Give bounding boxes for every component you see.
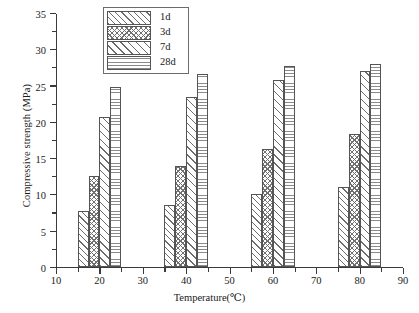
bar [284, 66, 295, 266]
y-minor-tick [52, 176, 56, 177]
y-tick-label: 35 [14, 9, 46, 20]
x-tick-label: 60 [268, 275, 279, 286]
bar [78, 211, 89, 266]
y-tick [50, 85, 56, 86]
y-minor-tick [52, 31, 56, 32]
x-tick [143, 268, 144, 274]
y-tick-label: 25 [14, 81, 46, 92]
legend-swatch [107, 56, 151, 70]
legend-item: 3d [107, 25, 185, 40]
y-axis-line [56, 14, 57, 268]
bar [349, 134, 360, 267]
y-minor-tick [52, 249, 56, 250]
y-tick-label: 20 [14, 117, 46, 128]
x-tick-label: 90 [398, 275, 409, 286]
legend-swatch [107, 41, 151, 55]
bar [360, 71, 371, 267]
x-minor-tick [338, 268, 339, 272]
legend-swatch [107, 11, 151, 25]
x-minor-tick [121, 268, 122, 272]
legend-label: 3d [160, 27, 171, 38]
bar [197, 74, 208, 267]
bar [186, 97, 197, 267]
legend-label: 1d [160, 12, 171, 23]
x-tick-label: 10 [51, 275, 62, 286]
x-tick [56, 268, 57, 274]
x-tick [273, 268, 274, 274]
y-tick-label: 0 [14, 263, 46, 274]
y-axis-label: Compressive strength (MPa) [21, 36, 32, 256]
x-minor-tick [295, 268, 296, 272]
x-tick [316, 268, 317, 274]
y-tick [50, 13, 56, 14]
y-tick-label: 15 [14, 154, 46, 165]
x-tick-label: 80 [354, 275, 365, 286]
bar [251, 194, 262, 267]
y-minor-tick [52, 212, 56, 213]
x-minor-tick [251, 268, 252, 272]
legend-label: 28d [160, 57, 176, 68]
legend-item: 7d [107, 40, 185, 55]
bar [110, 87, 121, 267]
y-tick-label: 10 [14, 190, 46, 201]
legend-item: 1d [107, 10, 185, 25]
bar [273, 80, 284, 267]
x-minor-tick [381, 268, 382, 272]
chart-legend: 1d3d7d28d [103, 7, 189, 74]
y-tick [50, 122, 56, 123]
y-tick [50, 158, 56, 159]
x-tick-label: 50 [224, 275, 235, 286]
x-minor-tick [164, 268, 165, 272]
bar [370, 64, 381, 266]
x-tick [186, 268, 187, 274]
x-tick [99, 268, 100, 274]
bar-chart: Compressive strength (MPa) Temperature(℃… [0, 0, 419, 313]
x-tick [360, 268, 361, 274]
x-tick-label: 70 [311, 275, 322, 286]
bar [262, 149, 273, 267]
y-tick-label: 5 [14, 226, 46, 237]
y-minor-tick [52, 67, 56, 68]
bar [338, 187, 349, 267]
y-tick-label: 30 [14, 45, 46, 56]
y-minor-tick [52, 104, 56, 105]
legend-label: 7d [160, 42, 171, 53]
x-minor-tick [78, 268, 79, 272]
bar [164, 205, 175, 267]
x-tick-label: 20 [94, 275, 105, 286]
y-tick [50, 231, 56, 232]
bar [175, 166, 186, 266]
x-axis-label: Temperature(℃) [0, 291, 419, 303]
x-tick-label: 40 [181, 275, 192, 286]
x-tick-label: 30 [138, 275, 149, 286]
y-tick [50, 49, 56, 50]
x-tick [403, 268, 404, 274]
legend-item: 28d [107, 55, 185, 70]
bar [99, 117, 110, 266]
bar [89, 176, 100, 267]
legend-swatch [107, 26, 151, 40]
x-tick [230, 268, 231, 274]
y-minor-tick [52, 140, 56, 141]
y-tick [50, 194, 56, 195]
x-minor-tick [208, 268, 209, 272]
